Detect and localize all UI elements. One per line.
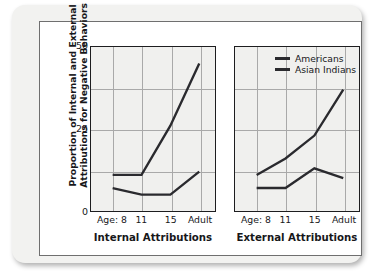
series-line-americans [113,63,200,175]
legend-label: Americans [295,53,344,64]
series-line-americans [257,90,344,175]
x-axis-tick-label: Age: 8 [241,214,271,225]
series-lines-internal [91,47,215,211]
chart-legend: AmericansAsian Indians [275,53,356,75]
x-axis-tick-label: Adult [188,214,212,225]
series-line-asian-indians [257,168,344,188]
panel-caption-internal: Internal Attributions [78,232,228,243]
y-axis-tick-labels: 02550 [64,22,88,257]
legend-entry: Asian Indians [275,64,356,75]
y-axis-tick-25: 25 [66,123,88,134]
plot-area-internal [90,46,216,212]
y-axis-tick-50: 50 [66,40,88,51]
chart-panel-internal: Age: 81115Adult Internal Attributions [90,22,218,257]
legend-line-icon [275,68,290,71]
x-axis-tick-label: 15 [309,214,321,225]
x-axis-tick-label: 15 [165,214,177,225]
x-axis-tick-label: Age: 8 [97,214,127,225]
x-axis-tick-label: Adult [332,214,356,225]
y-axis-tick-0: 0 [66,206,88,217]
figure-frame: Proportion of Internal and External Attr… [39,21,362,256]
figure-plate: Proportion of Internal and External Attr… [12,5,362,263]
chart-panel-external: AmericansAsian Indians Age: 81115Adult E… [234,22,362,257]
legend-entry: Americans [275,53,356,64]
x-axis-tick-labels-internal: Age: 81115Adult [90,214,216,228]
x-axis-tick-labels-external: Age: 81115Adult [234,214,360,228]
plot-area-external: AmericansAsian Indians [234,46,360,212]
x-axis-tick-label: 11 [135,214,147,225]
legend-label: Asian Indians [295,64,356,75]
x-axis-tick-label: 11 [279,214,291,225]
panel-caption-external: External Attributions [222,232,372,243]
legend-line-icon [275,57,290,60]
